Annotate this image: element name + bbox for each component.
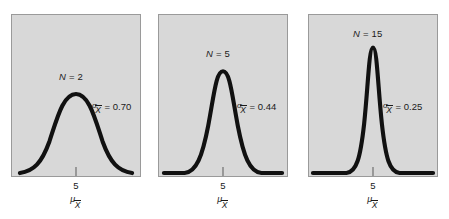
sigma-value-3: 0.25 [404,101,423,112]
normal-curve-svg-1 [12,15,140,176]
normal-curve-svg-2 [159,15,287,176]
sigma-value-1: 0.70 [113,101,132,112]
sigma-equals-2: = [250,101,256,112]
distribution-panel-1: N = 2 σX= 0.70 [11,14,141,177]
n-symbol-3: N [353,28,360,39]
sample-size-label-1: N = 2 [59,71,83,82]
mu-subscript-xbar-2: X [221,200,228,210]
standard-error-label-2: σX= 0.44 [237,101,276,112]
sigma-equals-3: = [396,101,402,112]
axis-mu-label-3: μX [353,196,393,207]
normal-curve-svg-3 [309,15,437,176]
axis-mu-label-1: μX [56,196,96,207]
axis-mu-label-2: μX [203,196,243,207]
n-value-1: 2 [78,71,83,82]
sigma-subscript-xbar-2: X [240,105,247,115]
n-symbol-2: N [206,48,213,59]
distribution-panel-2: N = 5 σX= 0.44 [158,14,288,177]
sigma-value-2: 0.44 [258,101,277,112]
n-value-2: 5 [225,48,230,59]
n-value-3: 15 [372,28,383,39]
sample-size-label-3: N = 15 [353,28,382,39]
sigma-subscript-xbar-1: X [95,105,102,115]
axis-tick-label-2: 5 [203,180,243,191]
sampling-distributions-figure: N = 2 σX= 0.70 N = 5 σX= 0.44 N = 15 σX=… [0,0,449,219]
distribution-panel-3: N = 15 σX= 0.25 [308,14,438,177]
standard-error-label-3: σX= 0.25 [383,101,422,112]
axis-tick-label-1: 5 [56,180,96,191]
normal-curve-path-2 [164,71,282,173]
sigma-subscript-xbar-3: X [386,105,393,115]
mu-subscript-xbar-1: X [74,200,81,210]
standard-error-label-1: σX= 0.70 [92,101,131,112]
sigma-equals-1: = [105,101,111,112]
sample-size-label-2: N = 5 [206,48,230,59]
mu-subscript-xbar-3: X [371,200,378,210]
axis-tick-label-3: 5 [353,180,393,191]
n-symbol-1: N [59,71,66,82]
